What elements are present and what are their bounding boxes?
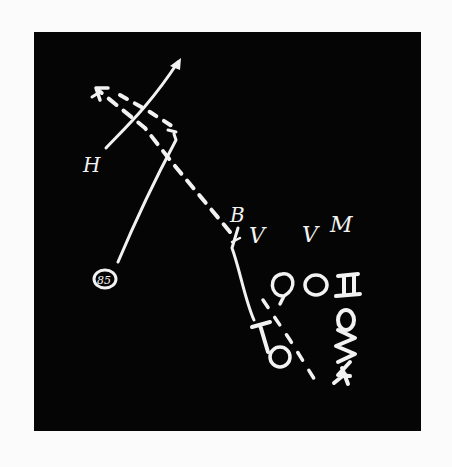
right-column [334,310,355,384]
arrowhead-icon [170,58,181,70]
85-route [118,130,176,262]
player-b: B [229,203,245,227]
player-85: 85 [94,270,116,288]
w-rotated [334,362,350,384]
play-diagram: 85 H B V V M [0,0,452,467]
circle-2 [305,275,327,295]
circle-1 [272,274,293,304]
lower-dashed-route [263,300,318,385]
player-85-label: 85 [97,274,111,287]
player-h: H [82,153,101,177]
dashed-deep-route [92,88,230,232]
bottom-circle [270,347,290,367]
center-square [336,274,360,296]
player-m: M [329,212,353,237]
offensive-line [272,274,360,304]
o-right [338,310,354,330]
player-t [252,322,270,352]
player-v1: V [249,223,267,248]
player-v2: V [302,222,320,247]
e-rotated [336,330,355,362]
